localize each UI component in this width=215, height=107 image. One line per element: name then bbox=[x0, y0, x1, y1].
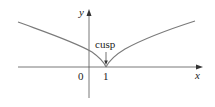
cusp-pointer bbox=[104, 52, 108, 65]
curve-right-branch bbox=[106, 21, 195, 67]
y-axis-label: y bbox=[78, 6, 84, 18]
cusp-graph: y x 0 1 cusp bbox=[0, 0, 215, 107]
y-axis bbox=[87, 9, 92, 98]
cusp-label: cusp bbox=[95, 38, 116, 50]
x-axis bbox=[18, 65, 203, 70]
curve-left-branch bbox=[18, 22, 106, 67]
tick-label-1: 1 bbox=[103, 70, 109, 82]
tick-label-0: 0 bbox=[78, 70, 84, 82]
x-axis-label: x bbox=[194, 69, 200, 81]
y-axis-arrow-icon bbox=[87, 9, 92, 16]
